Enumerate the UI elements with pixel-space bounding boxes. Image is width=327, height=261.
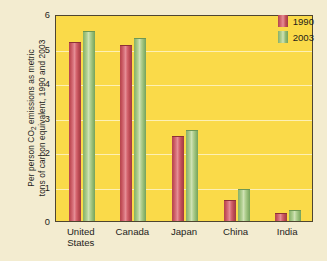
legend-label: 1990 bbox=[293, 16, 314, 27]
y-tick-label: 4 bbox=[34, 79, 50, 89]
x-tick-label: India bbox=[277, 226, 298, 237]
x-tick-label: Japan bbox=[171, 226, 197, 237]
legend-swatch-icon bbox=[278, 15, 288, 27]
y-tick-label: 5 bbox=[34, 45, 50, 55]
legend-item-2003: 2003 bbox=[278, 31, 314, 43]
x-tick-label: Canada bbox=[116, 226, 150, 237]
legend-item-1990: 1990 bbox=[278, 15, 314, 27]
y-tick-label: 0 bbox=[34, 217, 50, 227]
bar-2003-india bbox=[289, 210, 301, 221]
y-tick-label: 2 bbox=[34, 148, 50, 158]
x-tick-label-line: China bbox=[223, 226, 248, 237]
legend-swatch-icon bbox=[278, 31, 288, 43]
plot-area bbox=[55, 15, 313, 222]
y-tick-label: 6 bbox=[34, 10, 50, 20]
legend: 19902003 bbox=[278, 15, 314, 43]
bar-1990-india bbox=[275, 213, 287, 221]
y-axis-tick-labels: 0123456 bbox=[34, 0, 50, 261]
x-tick-label-line: United bbox=[67, 226, 95, 237]
x-tick-label: China bbox=[223, 226, 248, 237]
x-axis-tick-labels: UnitedStatesCanadaJapanChinaIndia bbox=[55, 226, 313, 260]
x-tick-label-line: States bbox=[67, 237, 95, 248]
co2-emissions-bar-chart: Per person CO2 emissions as metric tons … bbox=[0, 0, 327, 261]
bars-layer bbox=[56, 16, 312, 221]
y-tick-label: 1 bbox=[34, 183, 50, 193]
legend-label: 2003 bbox=[293, 32, 314, 43]
x-tick-label: UnitedStates bbox=[67, 226, 95, 249]
x-tick-label-line: Japan bbox=[171, 226, 197, 237]
x-tick-label-line: India bbox=[277, 226, 298, 237]
bar-group bbox=[56, 16, 314, 221]
x-tick-label-line: Canada bbox=[116, 226, 150, 237]
y-tick-label: 3 bbox=[34, 114, 50, 124]
